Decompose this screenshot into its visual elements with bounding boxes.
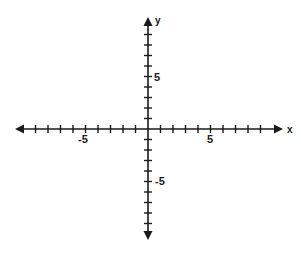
y-tick-label-neg5: -5 — [155, 175, 165, 187]
coordinate-plane: x y -5 5 5 -5 — [0, 0, 301, 256]
y-axis-down-arrow-icon — [144, 231, 153, 240]
y-tick-label-pos5: 5 — [154, 71, 160, 83]
y-axis-up-arrow-icon — [144, 17, 153, 26]
x-axis-label: x — [287, 124, 293, 135]
x-axis-right-arrow-icon — [274, 125, 283, 134]
x-tick-label-pos5: 5 — [207, 133, 213, 145]
x-axis-left-arrow-icon — [15, 125, 24, 134]
x-tick-label-neg5: -5 — [78, 133, 88, 145]
y-axis-label: y — [155, 15, 161, 26]
